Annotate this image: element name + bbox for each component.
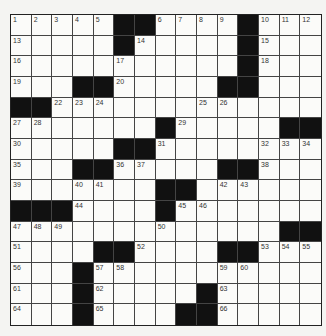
grid-cell[interactable] [300,304,321,325]
grid-cell[interactable]: 34 [300,139,321,160]
grid-cell[interactable]: 54 [280,242,301,263]
grid-cell[interactable]: 31 [156,139,177,160]
grid-cell[interactable]: 10 [259,15,280,36]
grid-cell[interactable] [280,201,301,222]
grid-cell[interactable] [135,77,156,98]
grid-cell[interactable]: 32 [259,139,280,160]
grid-cell[interactable] [280,263,301,284]
grid-cell[interactable]: 22 [52,98,73,119]
grid-cell[interactable] [218,36,239,57]
grid-cell[interactable] [135,180,156,201]
grid-cell[interactable]: 11 [280,15,301,36]
grid-cell[interactable] [52,263,73,284]
grid-cell[interactable] [176,98,197,119]
grid-cell[interactable]: 44 [73,201,94,222]
grid-cell[interactable] [218,201,239,222]
grid-cell[interactable] [135,201,156,222]
grid-cell[interactable]: 25 [197,98,218,119]
grid-cell[interactable] [114,180,135,201]
grid-cell[interactable] [300,160,321,181]
grid-cell[interactable] [73,222,94,243]
grid-cell[interactable] [300,284,321,305]
grid-cell[interactable] [238,139,259,160]
grid-cell[interactable] [259,180,280,201]
grid-cell[interactable]: 29 [176,118,197,139]
grid-cell[interactable] [32,304,53,325]
grid-cell[interactable]: 62 [94,284,115,305]
grid-cell[interactable] [156,56,177,77]
grid-cell[interactable] [259,263,280,284]
grid-cell[interactable]: 2 [32,15,53,36]
grid-cell[interactable] [94,222,115,243]
grid-cell[interactable] [32,180,53,201]
grid-cell[interactable] [114,284,135,305]
grid-cell[interactable] [280,304,301,325]
grid-cell[interactable]: 27 [11,118,32,139]
grid-cell[interactable] [197,160,218,181]
grid-cell[interactable]: 46 [197,201,218,222]
grid-cell[interactable] [197,77,218,98]
grid-cell[interactable]: 66 [218,304,239,325]
grid-cell[interactable]: 60 [238,263,259,284]
grid-cell[interactable] [300,77,321,98]
grid-cell[interactable] [300,263,321,284]
grid-cell[interactable] [73,139,94,160]
grid-cell[interactable] [52,284,73,305]
grid-cell[interactable]: 64 [11,304,32,325]
grid-cell[interactable] [156,160,177,181]
grid-cell[interactable] [176,263,197,284]
grid-cell[interactable] [52,139,73,160]
grid-cell[interactable]: 3 [52,15,73,36]
grid-cell[interactable]: 18 [259,56,280,77]
grid-cell[interactable]: 35 [11,160,32,181]
grid-cell[interactable] [135,118,156,139]
grid-cell[interactable]: 50 [156,222,177,243]
grid-cell[interactable]: 43 [238,180,259,201]
grid-cell[interactable]: 45 [176,201,197,222]
grid-cell[interactable]: 49 [52,222,73,243]
grid-cell[interactable] [94,118,115,139]
grid-cell[interactable] [197,139,218,160]
grid-cell[interactable] [114,98,135,119]
grid-cell[interactable] [156,77,177,98]
grid-cell[interactable]: 24 [94,98,115,119]
grid-cell[interactable] [218,56,239,77]
grid-cell[interactable]: 30 [11,139,32,160]
grid-cell[interactable] [52,242,73,263]
grid-cell[interactable]: 65 [94,304,115,325]
grid-cell[interactable] [52,36,73,57]
grid-cell[interactable] [52,77,73,98]
grid-cell[interactable]: 40 [73,180,94,201]
grid-cell[interactable] [238,201,259,222]
grid-cell[interactable]: 48 [32,222,53,243]
grid-cell[interactable]: 6 [156,15,177,36]
grid-cell[interactable] [32,263,53,284]
grid-cell[interactable] [73,56,94,77]
grid-cell[interactable] [52,304,73,325]
grid-cell[interactable] [259,304,280,325]
grid-cell[interactable] [176,242,197,263]
grid-cell[interactable] [32,242,53,263]
grid-cell[interactable] [259,284,280,305]
grid-cell[interactable] [238,222,259,243]
grid-cell[interactable] [156,304,177,325]
grid-cell[interactable]: 28 [32,118,53,139]
grid-cell[interactable] [300,201,321,222]
grid-cell[interactable] [135,98,156,119]
grid-cell[interactable] [176,222,197,243]
grid-cell[interactable] [280,56,301,77]
grid-cell[interactable] [32,56,53,77]
grid-cell[interactable] [52,160,73,181]
grid-cell[interactable] [218,139,239,160]
grid-cell[interactable]: 57 [94,263,115,284]
grid-cell[interactable] [135,263,156,284]
grid-cell[interactable] [218,222,239,243]
grid-cell[interactable] [197,56,218,77]
grid-cell[interactable]: 13 [11,36,32,57]
grid-cell[interactable] [52,118,73,139]
grid-cell[interactable]: 20 [114,77,135,98]
grid-cell[interactable] [218,118,239,139]
grid-cell[interactable]: 52 [135,242,156,263]
grid-cell[interactable]: 58 [114,263,135,284]
grid-cell[interactable] [52,56,73,77]
